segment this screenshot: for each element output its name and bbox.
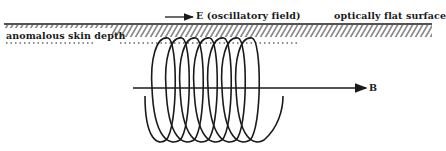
- skin-depth-label: anomalous skin depth: [6, 30, 126, 41]
- helix-coil: [145, 38, 283, 142]
- e-field-label: E (oscillatory field): [196, 10, 301, 21]
- surface-label: optically flat surface: [334, 10, 446, 21]
- b-field-label: B: [369, 82, 377, 93]
